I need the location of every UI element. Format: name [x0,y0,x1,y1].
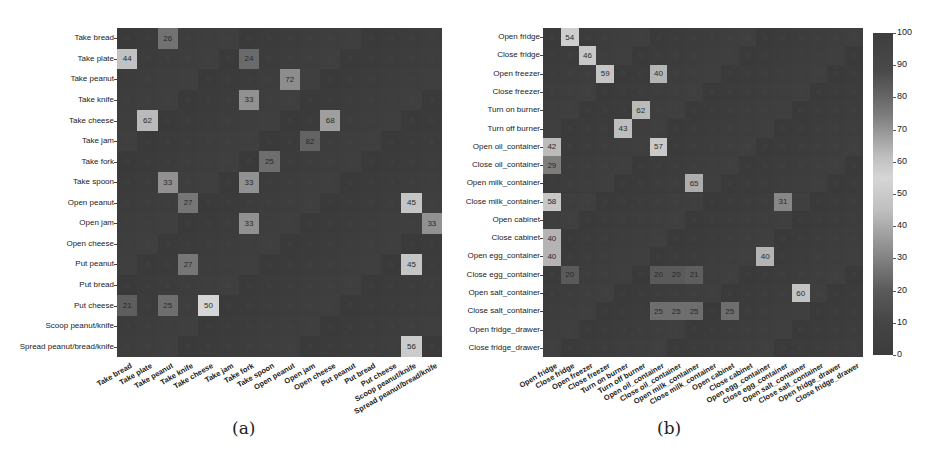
heatmap-cell: 0 [827,28,845,46]
colorbar-tick-mark [893,130,896,131]
heatmap-cell: 0 [340,172,360,193]
heatmap-cell: 0 [792,138,810,156]
heatmap-cell: 0 [361,316,381,337]
heatmap-cell: 0 [792,339,810,357]
row-label: Take plate [78,54,114,64]
colorbar-tick-mark [893,355,896,356]
heatmap-cell: 0 [721,138,739,156]
heatmap-cell: 0 [198,336,218,357]
heatmap-cell: 0 [219,131,239,152]
heatmap-cell: 0 [219,254,239,275]
heatmap-cell: 0 [792,247,810,265]
heatmap-cell: 0 [340,49,360,70]
heatmap-cell: 0 [827,174,845,192]
heatmap-cell: 0 [561,138,579,156]
heatmap-cell: 0 [845,28,863,46]
heatmap-cell: 0 [178,316,198,337]
heatmap-cell: 0 [739,65,757,83]
heatmap-cell: 0 [259,28,279,49]
heatmap-cell: 0 [632,320,650,338]
tick-mark [114,347,117,348]
heatmap-cell: 0 [117,172,137,193]
heatmap-cell: 0 [219,69,239,90]
heatmap-cell: 0 [810,266,828,284]
heatmap-cell: 0 [137,193,157,214]
heatmap-cell: 0 [579,266,597,284]
heatmap-cell: 0 [137,336,157,357]
heatmap-cell: 0 [739,211,757,229]
heatmap-cell: 0 [792,28,810,46]
heatmap-cell: 0 [596,247,614,265]
heatmap-cell: 0 [596,211,614,229]
colorbar-tick-label: 30 [897,252,907,262]
heatmap-cell: 0 [300,110,320,131]
heatmap-cell: 0 [320,193,340,214]
row-label: Close cabinet [492,233,540,243]
heatmap-cell: 0 [543,266,561,284]
heatmap-cell: 0 [685,320,703,338]
heatmap-cell: 0 [259,336,279,357]
heatmap-cell: 62 [137,110,157,131]
heatmap-cell: 0 [721,284,739,302]
heatmap-cell: 0 [137,295,157,316]
heatmap-cell: 0 [792,174,810,192]
heatmap-cell: 0 [219,336,239,357]
heatmap-cell: 0 [117,193,137,214]
heatmap-cell: 0 [614,284,632,302]
heatmap-cell: 0 [178,151,198,172]
heatmap-cell: 0 [401,316,421,337]
heatmap-cell: 25 [650,302,668,320]
heatmap-cell: 0 [756,284,774,302]
heatmap-cell: 0 [137,28,157,49]
heatmap-cell: 0 [579,101,597,119]
heatmap-cell: 0 [810,247,828,265]
heatmap-cell: 0 [667,101,685,119]
heatmap-cell: 0 [561,284,579,302]
heatmap-cell: 0 [259,69,279,90]
heatmap-cell: 0 [650,119,668,137]
heatmap-cell: 57 [650,138,668,156]
heatmap-cell: 0 [703,320,721,338]
heatmap-cell: 0 [561,302,579,320]
colorbar-tick-mark [893,323,896,324]
heatmap-cell: 0 [579,83,597,101]
heatmap-cell: 0 [117,90,137,111]
heatmap-cell: 0 [401,151,421,172]
heatmap-cell: 0 [739,266,757,284]
colorbar-tick-mark [893,291,896,292]
heatmap-cell: 0 [596,302,614,320]
colorbar-tick-label: 10 [897,317,907,327]
heatmap-cell: 0 [543,83,561,101]
heatmap-cell: 0 [721,339,739,357]
heatmap-cell: 0 [239,234,259,255]
row-label: Take knife [78,95,114,105]
heatmap-cell: 0 [774,46,792,64]
heatmap-cell: 0 [300,193,320,214]
heatmap-cell: 58 [543,193,561,211]
tick-mark [540,165,543,166]
heatmap-cell: 0 [685,138,703,156]
tick-mark [114,244,117,245]
heatmap-cell: 0 [614,65,632,83]
heatmap-cell: 0 [827,284,845,302]
colorbar-tick-label: 100 [897,27,912,37]
tick-mark [114,223,117,224]
heatmap-cell: 0 [667,193,685,211]
heatmap-cell: 0 [685,229,703,247]
heatmap-cell: 0 [300,254,320,275]
colorbar-tick-mark [893,65,896,66]
heatmap-cell: 0 [239,193,259,214]
heatmap-cell: 0 [685,46,703,64]
row-label: Close egg_container [467,270,540,280]
heatmap-cell: 0 [158,131,178,152]
heatmap-cell: 0 [259,275,279,296]
heatmap-cell: 0 [198,275,218,296]
heatmap-cell: 0 [422,131,442,152]
heatmap-cell: 0 [721,65,739,83]
heatmap-cell: 0 [198,213,218,234]
heatmap-cell: 25 [721,302,739,320]
heatmap-cell: 0 [845,65,863,83]
heatmap-cell: 0 [259,193,279,214]
heatmap-cell: 0 [561,156,579,174]
heatmap-cell: 0 [827,320,845,338]
